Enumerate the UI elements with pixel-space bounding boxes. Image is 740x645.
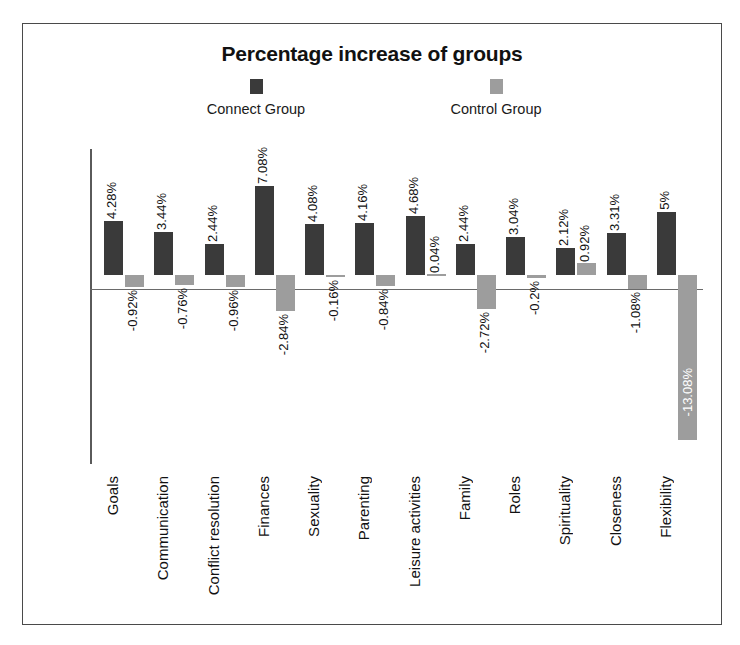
bar-value-label: -0.2% xyxy=(525,281,544,315)
y-axis-line xyxy=(90,149,92,464)
bar-group: 4.28%-0.92% xyxy=(98,149,148,464)
bar-connect-group xyxy=(506,237,525,275)
bar-group: 2.44%-2.72% xyxy=(450,149,500,464)
x-axis-label-goals: Goals xyxy=(104,476,121,515)
x-axis-label-family: Family xyxy=(456,476,473,520)
bar-value-label: 4.28% xyxy=(102,182,121,219)
bar-value-label: 3.31% xyxy=(605,194,624,231)
bar-connect-group xyxy=(657,212,676,275)
bar-value-label: 2.44% xyxy=(454,205,473,242)
chart-figure-frame: Percentage increase of groups Connect Gr… xyxy=(22,23,722,625)
bar-group: 3.31%-1.08% xyxy=(601,149,651,464)
x-axis-label-sexuality: Sexuality xyxy=(305,476,322,537)
bar-group: 3.04%-0.2% xyxy=(500,149,550,464)
bar-control-group xyxy=(276,275,295,311)
x-axis-label-roles: Roles xyxy=(506,476,523,514)
bar-value-label: -0.16% xyxy=(324,280,343,321)
bar-value-label: 4.08% xyxy=(303,185,322,222)
bar-value-label: -2.84% xyxy=(274,314,293,355)
bar-control-group xyxy=(527,275,546,278)
bar-group: 7.08%-2.84% xyxy=(249,149,299,464)
bar-value-label: -0.76% xyxy=(173,288,192,329)
bar-value-label: 3.04% xyxy=(504,198,523,235)
bar-group: 4.16%-0.84% xyxy=(349,149,399,464)
bar-connect-group xyxy=(456,244,475,275)
bar-connect-group xyxy=(556,248,575,275)
bar-value-label: -13.08% xyxy=(678,368,697,416)
bar-control-group xyxy=(427,274,446,276)
bar-value-label: 5% xyxy=(655,191,674,210)
legend-swatch-connect-icon xyxy=(250,79,263,94)
bar-connect-group xyxy=(154,232,173,275)
plot-area: 10%5%0%-5%-10%-15% 4.28%-0.92%3.44%-0.76… xyxy=(90,149,703,464)
bar-control-group xyxy=(376,275,395,286)
x-axis-label-spirituality: Spirituality xyxy=(556,476,573,545)
x-axis-category-labels: GoalsCommunicationConflict resolutionFin… xyxy=(90,476,703,626)
bar-value-label: -0.92% xyxy=(123,290,142,331)
x-axis-label-parenting: Parenting xyxy=(355,476,372,540)
bar-value-label: 0.04% xyxy=(425,236,444,273)
x-axis-label-closeness: Closeness xyxy=(607,476,624,546)
bar-control-group xyxy=(577,263,596,275)
bar-value-label: 2.12% xyxy=(554,209,573,246)
bar-value-label: 7.08% xyxy=(253,147,272,184)
bar-group: 4.08%-0.16% xyxy=(299,149,349,464)
legend-entry-control-group: Control Group xyxy=(406,79,586,118)
chart-title: Percentage increase of groups xyxy=(23,42,721,66)
bar-control-group xyxy=(125,275,144,287)
bar-connect-group xyxy=(406,216,425,275)
bar-control-group xyxy=(175,275,194,285)
bar-connect-group xyxy=(104,221,123,275)
bar-control-group xyxy=(326,275,345,277)
bar-value-label: -1.08% xyxy=(626,292,645,333)
bar-control-group xyxy=(226,275,245,287)
bar-connect-group xyxy=(607,233,626,275)
bar-value-label: 4.68% xyxy=(404,177,423,214)
bar-connect-group xyxy=(255,186,274,275)
bar-group: 5%-13.08% xyxy=(651,149,701,464)
bar-control-group xyxy=(628,275,647,289)
x-axis-label-leisure-activities: Leisure activities xyxy=(406,476,423,587)
legend-label-control-group: Control Group xyxy=(450,101,541,117)
bar-connect-group xyxy=(205,244,224,275)
chart-legend: Connect Group Control Group xyxy=(23,79,721,129)
bar-value-label: 4.16% xyxy=(353,184,372,221)
bar-group: 3.44%-0.76% xyxy=(148,149,198,464)
bar-value-label: -2.72% xyxy=(475,312,494,353)
legend-entry-connect-group: Connect Group xyxy=(166,79,346,118)
bar-value-label: 2.44% xyxy=(203,205,222,242)
x-axis-label-communication: Communication xyxy=(154,476,171,580)
bar-connect-group xyxy=(355,223,374,275)
x-axis-label-finances: Finances xyxy=(255,476,272,537)
bar-value-label: 0.92% xyxy=(575,225,594,262)
x-axis-label-flexibility: Flexibility xyxy=(657,476,674,538)
bar-connect-group xyxy=(305,224,324,275)
bar-value-label: -0.96% xyxy=(224,290,243,331)
legend-swatch-control-icon xyxy=(490,79,503,94)
bar-value-label: -0.84% xyxy=(374,289,393,330)
bar-control-group xyxy=(477,275,496,309)
bar-group: 2.44%-0.96% xyxy=(199,149,249,464)
legend-label-connect-group: Connect Group xyxy=(207,101,305,117)
bar-group: 2.12%0.92% xyxy=(550,149,600,464)
bar-group: 4.68%0.04% xyxy=(400,149,450,464)
x-axis-label-conflict-resolution: Conflict resolution xyxy=(205,476,222,595)
bar-value-label: 3.44% xyxy=(152,193,171,230)
